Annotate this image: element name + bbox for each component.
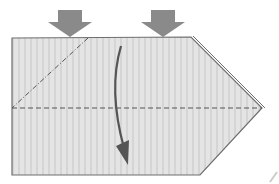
decorative-mark — [270, 172, 277, 182]
push-arrow-left-icon — [48, 10, 92, 37]
origami-diagram — [0, 0, 279, 184]
push-arrow-right-icon — [141, 10, 185, 37]
paper-sheet — [12, 37, 262, 175]
